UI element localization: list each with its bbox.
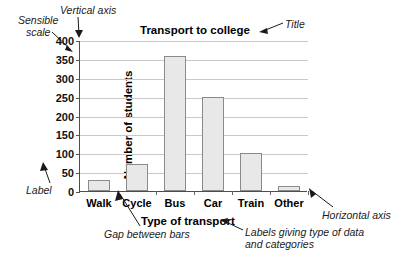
x-tick-mark: [194, 191, 195, 195]
gridline: [80, 154, 308, 155]
x-category-label: Other: [274, 197, 303, 209]
annotation-sensible-scale: Sensible scale: [18, 14, 58, 38]
y-tick-mark: [76, 173, 80, 174]
gridline: [80, 135, 308, 136]
y-tick-label: 250: [56, 92, 74, 104]
bar: [240, 153, 263, 191]
bar: [278, 186, 301, 191]
plot-area: Number of students 050100150200250300350…: [79, 41, 307, 192]
y-tick-label: 100: [56, 148, 74, 160]
bar: [126, 164, 149, 191]
x-category-label: Bus: [165, 197, 186, 209]
annotation-category-labels: Labels giving type of data and categorie…: [245, 226, 364, 250]
x-tick-mark: [270, 191, 271, 195]
gridline: [80, 98, 308, 99]
bar: [164, 56, 187, 191]
y-tick-mark: [76, 98, 80, 99]
y-tick-mark: [76, 135, 80, 136]
annotation-title: Title: [285, 18, 305, 30]
y-tick-label: 150: [56, 129, 74, 141]
chart-title: Transport to college: [140, 24, 250, 36]
gridline: [80, 60, 308, 61]
annotation-vertical-axis: Vertical axis: [60, 4, 116, 16]
x-tick-mark: [156, 191, 157, 195]
x-axis-title: Type of transport: [141, 215, 235, 227]
y-tick-label: 200: [56, 111, 74, 123]
annotation-gap-between-bars: Gap between bars: [104, 228, 190, 240]
gridline: [80, 41, 308, 42]
y-tick-mark: [76, 41, 80, 42]
y-tick-label: 400: [56, 35, 74, 47]
x-category-label: Car: [204, 197, 222, 209]
x-category-label: Train: [238, 197, 264, 209]
y-tick-mark: [76, 79, 80, 80]
gridline: [80, 79, 308, 80]
x-tick-mark: [308, 191, 309, 195]
y-tick-label: 0: [68, 186, 74, 198]
y-tick-mark: [76, 154, 80, 155]
bar: [202, 97, 225, 191]
y-tick-mark: [76, 192, 80, 193]
y-tick-mark: [76, 117, 80, 118]
x-tick-mark: [118, 191, 119, 195]
x-category-label: Cycle: [122, 197, 151, 209]
y-tick-label: 350: [56, 54, 74, 66]
bar: [88, 180, 111, 191]
x-category-label: Walk: [86, 197, 111, 209]
gridline: [80, 173, 308, 174]
annotation-horizontal-axis: Horizontal axis: [322, 209, 391, 221]
y-tick-mark: [76, 60, 80, 61]
bar-chart-figure: Sensible scale Vertical axis Title Label…: [0, 0, 402, 261]
annotation-label: Label: [26, 184, 52, 196]
gridline: [80, 117, 308, 118]
x-tick-mark: [232, 191, 233, 195]
y-tick-label: 300: [56, 73, 74, 85]
y-tick-label: 50: [62, 167, 74, 179]
